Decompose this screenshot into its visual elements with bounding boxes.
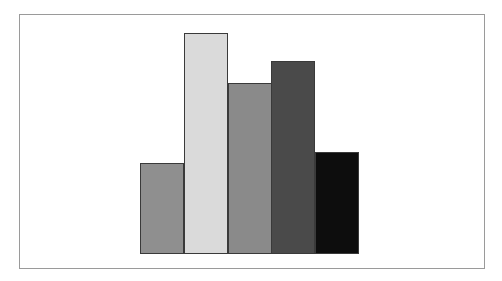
bar-4 xyxy=(271,61,315,254)
bar-2 xyxy=(184,33,228,254)
bar-5 xyxy=(315,152,359,254)
bar-1 xyxy=(140,163,184,254)
bar-3 xyxy=(228,83,272,254)
